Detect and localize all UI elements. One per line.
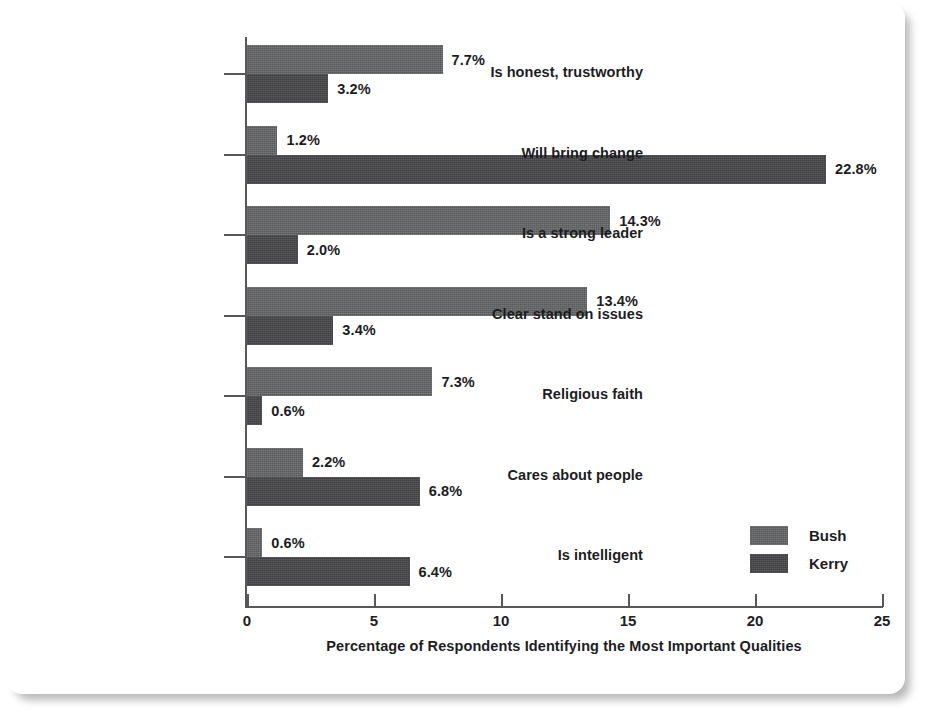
x-axis-tick (755, 594, 757, 607)
bar-value-label: 7.7% (452, 52, 485, 68)
bar-row: 2.0% (247, 235, 340, 264)
category-label: Is intelligent (558, 547, 643, 563)
bar-kerry (247, 396, 262, 425)
category-tick (224, 476, 245, 478)
category-tick (224, 315, 245, 317)
x-axis-tick (501, 594, 503, 607)
x-axis-tick-label: 5 (370, 612, 378, 629)
bar-value-label: 22.8% (835, 161, 877, 177)
bar-bush (247, 367, 432, 396)
bar-value-label: 2.0% (307, 242, 340, 258)
bar-bush (247, 126, 277, 155)
bar-value-label: 6.4% (419, 564, 452, 580)
bar-chart: 7.7%3.2%Is honest, trustworthy1.2%22.8%W… (6, 2, 905, 694)
bar-row: 1.2% (247, 126, 320, 155)
x-axis-tick-label: 25 (874, 612, 891, 629)
x-axis-tick (374, 594, 376, 607)
x-axis-title: Percentage of Respondents Identifying th… (245, 638, 883, 654)
x-axis-tick-label: 0 (243, 612, 251, 629)
bar-value-label: 0.6% (271, 403, 304, 419)
category-label: Is honest, trustworthy (490, 64, 643, 80)
x-axis-tick-label: 15 (620, 612, 637, 629)
legend-swatch (750, 526, 788, 545)
category-label: Religious faith (542, 386, 643, 402)
bar-row: 3.2% (247, 74, 371, 103)
bar-kerry (247, 477, 420, 506)
category-tick (224, 154, 245, 156)
category-label: Is a strong leader (522, 225, 643, 241)
bar-kerry (247, 235, 298, 264)
category-tick (224, 234, 245, 236)
bar-bush (247, 528, 262, 557)
bar-value-label: 1.2% (286, 132, 319, 148)
category-label: Will bring change (521, 145, 643, 161)
x-axis-tick-label: 10 (493, 612, 510, 629)
bar-value-label: 6.8% (429, 483, 462, 499)
bar-row: 6.4% (247, 557, 452, 586)
bar-row: 7.7% (247, 45, 485, 74)
bar-row: 6.8% (247, 477, 462, 506)
bar-kerry (247, 557, 410, 586)
bar-value-label: 7.3% (441, 374, 474, 390)
category-tick (224, 73, 245, 75)
x-axis-tick (628, 594, 630, 607)
bar-value-label: 3.4% (342, 322, 375, 338)
legend-swatch (750, 554, 788, 573)
bar-row: 3.4% (247, 316, 376, 345)
bar-bush (247, 45, 443, 74)
bar-row: 0.6% (247, 396, 305, 425)
chart-legend: BushKerry (750, 526, 848, 582)
category-tick (224, 395, 245, 397)
x-axis-tick (247, 594, 249, 607)
bar-value-label: 2.2% (312, 454, 345, 470)
bar-row: 7.3% (247, 367, 475, 396)
bar-value-label: 3.2% (337, 81, 370, 97)
bar-kerry (247, 74, 328, 103)
bar-value-label: 0.6% (271, 535, 304, 551)
category-label: Cares about people (508, 467, 643, 483)
legend-label: Bush (809, 527, 847, 544)
bar-kerry (247, 316, 333, 345)
category-tick (224, 556, 245, 558)
bar-bush (247, 448, 303, 477)
chart-card: 7.7%3.2%Is honest, trustworthy1.2%22.8%W… (6, 2, 905, 694)
bar-row: 0.6% (247, 528, 305, 557)
category-label: Clear stand on issues (492, 306, 643, 322)
bar-row: 2.2% (247, 448, 345, 477)
legend-item-kerry: Kerry (750, 554, 848, 573)
legend-label: Kerry (809, 555, 848, 572)
legend-item-bush: Bush (750, 526, 848, 545)
x-axis-tick (882, 594, 884, 607)
x-axis-tick-label: 20 (747, 612, 764, 629)
